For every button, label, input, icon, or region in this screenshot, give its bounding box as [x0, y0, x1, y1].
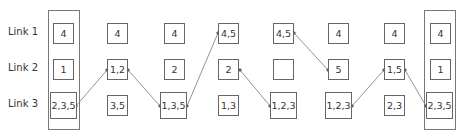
cell-c0-link3: 2,3,5 — [50, 92, 77, 119]
cell-c1-link1: 4 — [107, 23, 128, 44]
cell-c3-link1: 4,5 — [218, 23, 239, 44]
cell-c2-link2: 2 — [164, 59, 185, 80]
cell-c2-link1: 4 — [164, 23, 185, 44]
cell-c4-link2 — [273, 59, 294, 80]
cell-c6-link3: 2,3 — [384, 95, 405, 116]
cell-c7-link1: 4 — [430, 23, 451, 44]
cell-c6-link1: 4 — [384, 23, 405, 44]
cell-c1-link3: 3,5 — [107, 95, 128, 116]
cell-c0-link2: 1 — [53, 59, 74, 80]
cell-c3-link2: 2 — [218, 59, 239, 80]
cell-c4-link1: 4,5 — [273, 23, 294, 44]
cell-c6-link2: 1,5 — [384, 59, 405, 80]
cell-c7-link2: 1 — [430, 59, 451, 80]
cell-c2-link3: 1,3,5 — [160, 92, 187, 119]
cell-c0-link1: 4 — [53, 23, 74, 44]
cell-c1-link2: 1,2 — [107, 59, 128, 80]
cell-c4-link3: 1,2,3 — [270, 92, 297, 119]
cell-c7-link3: 2,3,5 — [426, 92, 453, 119]
cell-c5-link2: 5 — [328, 59, 349, 80]
cell-c3-link3: 1,3 — [218, 95, 239, 116]
cell-c5-link1: 4 — [328, 23, 349, 44]
cell-c5-link3: 1,2,3 — [325, 92, 352, 119]
